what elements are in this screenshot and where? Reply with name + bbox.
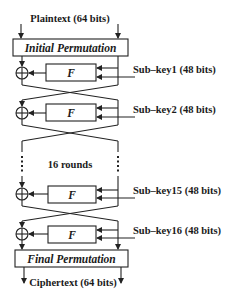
xor-icon (16, 107, 28, 119)
f-label: F (67, 189, 76, 201)
ciphertext-label: Ciphertext (64 bits) (29, 277, 117, 289)
round-15: F Sub–key15 (48 bits) (16, 176, 222, 221)
round-2: F Sub–key2 (48 bits) (16, 100, 216, 141)
round-16: F Sub–key16 (48 bits) (16, 221, 222, 249)
plaintext-label: Plaintext (64 bits) (30, 13, 110, 25)
initial-permutation-label: Initial Permutation (24, 42, 117, 54)
xor-icon (16, 188, 28, 200)
final-permutation-label: Final Permutation (26, 253, 116, 265)
xor-icon (16, 67, 28, 79)
subkey-1-label: Sub–key1 (48 bits) (133, 64, 216, 76)
xor-icon (16, 228, 28, 240)
subkey-15-label: Sub–key15 (48 bits) (133, 185, 222, 197)
subkey-2-label: Sub–key2 (48 bits) (133, 104, 216, 116)
subkey-16-label: Sub–key16 (48 bits) (133, 225, 222, 237)
initial-permutation-box: Initial Permutation (13, 39, 128, 56)
round-1: F Sub–key1 (48 bits) (16, 56, 216, 100)
rounds-ellipsis: 16 rounds (22, 141, 118, 172)
f-label: F (67, 229, 76, 241)
f-label: F (66, 107, 75, 119)
final-permutation-box: Final Permutation (15, 250, 128, 267)
des-diagram: Plaintext (64 bits) Initial Permutation … (0, 0, 235, 305)
rounds-label: 16 rounds (48, 159, 92, 170)
f-label: F (66, 67, 75, 79)
